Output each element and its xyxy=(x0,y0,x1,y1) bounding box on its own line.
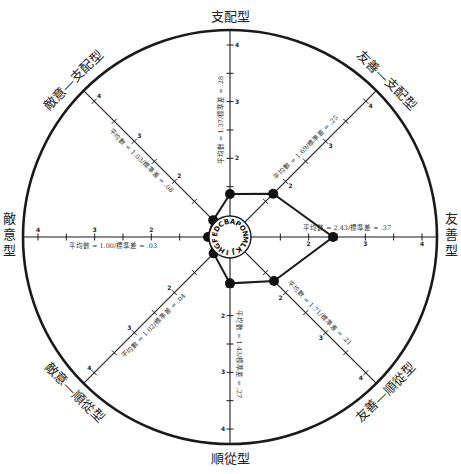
tick-label: 3 xyxy=(329,142,333,149)
profile-node-friendly-dominant xyxy=(268,189,278,199)
tick-label: 2 xyxy=(149,226,153,233)
tick-label: 3 xyxy=(221,368,225,375)
axis-label-submissive: 順從型 xyxy=(211,451,250,466)
tick-label: 2 xyxy=(288,182,292,189)
axis-stat-hostile: 平均數 = 1.00/標準差 = .03 xyxy=(69,241,157,250)
profile-node-dominant xyxy=(225,189,235,199)
axis-hostile-submissive: 234平均數 = 1.02/標準差 = .04 xyxy=(84,252,216,384)
axis-label-hostile: 敵 xyxy=(3,211,16,226)
tick-label: 3 xyxy=(127,324,131,331)
axis-label-friendly: 善 xyxy=(445,227,458,242)
tick-label: 4 xyxy=(87,364,91,371)
tick-label: 4 xyxy=(221,425,225,432)
tick-label: 4 xyxy=(369,102,373,109)
axis-label-hostile: 意 xyxy=(3,227,16,242)
tick-label: 2 xyxy=(177,172,181,179)
axis-stat-hostile-dominant: 平均數 = 1.03/標準差 = .08 xyxy=(107,126,176,195)
axis-line xyxy=(245,91,377,223)
tick-label: 2 xyxy=(279,294,283,301)
tick-label: 4 xyxy=(97,92,101,99)
tick-label: 4 xyxy=(359,374,363,381)
axis-hostile: 234平均數 = 1.00/標準差 = .03 xyxy=(23,226,209,250)
tick-label: 2 xyxy=(307,240,311,247)
axis-friendly: 234平均數 = 2.43/標準差 = .37 xyxy=(251,223,437,247)
tick-label: 3 xyxy=(93,226,97,233)
axis-stat-dominant: 平均數 = 1.37/標準差 = .28 xyxy=(216,76,225,164)
circumplex-diagram: 234平均數 = 1.37/標準差 = .28234平均數 = 1.69/標準差… xyxy=(0,0,461,474)
tick-label: 3 xyxy=(319,334,323,341)
tick-label: 2 xyxy=(167,284,171,291)
axis-dominant: 234平均數 = 1.37/標準差 = .28 xyxy=(216,30,239,216)
tick-label: 2 xyxy=(235,154,239,161)
axis-friendly-dominant: 234平均數 = 1.69/標準差 = .25 xyxy=(245,91,377,223)
axis-line xyxy=(84,91,216,223)
axis-label-dominant: 支配型 xyxy=(211,9,250,24)
axis-label-friendly: 友 xyxy=(445,211,458,226)
axis-friendly-submissive: 234平均數 = 1.71/標準差 = .21 xyxy=(245,252,377,384)
axis-label-hostile: 型 xyxy=(3,243,16,258)
tick-label: 4 xyxy=(420,240,424,247)
tick-label: 3 xyxy=(137,132,141,139)
profile-node-friendly-submissive xyxy=(269,276,279,286)
tick-label: 2 xyxy=(221,312,225,319)
axis-hostile-dominant: 234平均數 = 1.03/標準差 = .08 xyxy=(84,91,216,223)
profile-node-friendly xyxy=(328,232,338,242)
profile-node-submissive xyxy=(225,278,235,288)
tick-label: 4 xyxy=(235,41,239,48)
tick-label: 4 xyxy=(36,226,40,233)
axis-line xyxy=(245,252,377,384)
tick-label: 3 xyxy=(235,98,239,105)
axis-label-friendly: 型 xyxy=(445,243,458,258)
center-ring: ABCDEFGHIJKLMNOP xyxy=(209,216,251,258)
tick-label: 3 xyxy=(363,240,367,247)
axis-line xyxy=(84,252,216,384)
axis-stat-submissive: 平均數 = 1.43/標準差 = .27 xyxy=(235,310,244,398)
